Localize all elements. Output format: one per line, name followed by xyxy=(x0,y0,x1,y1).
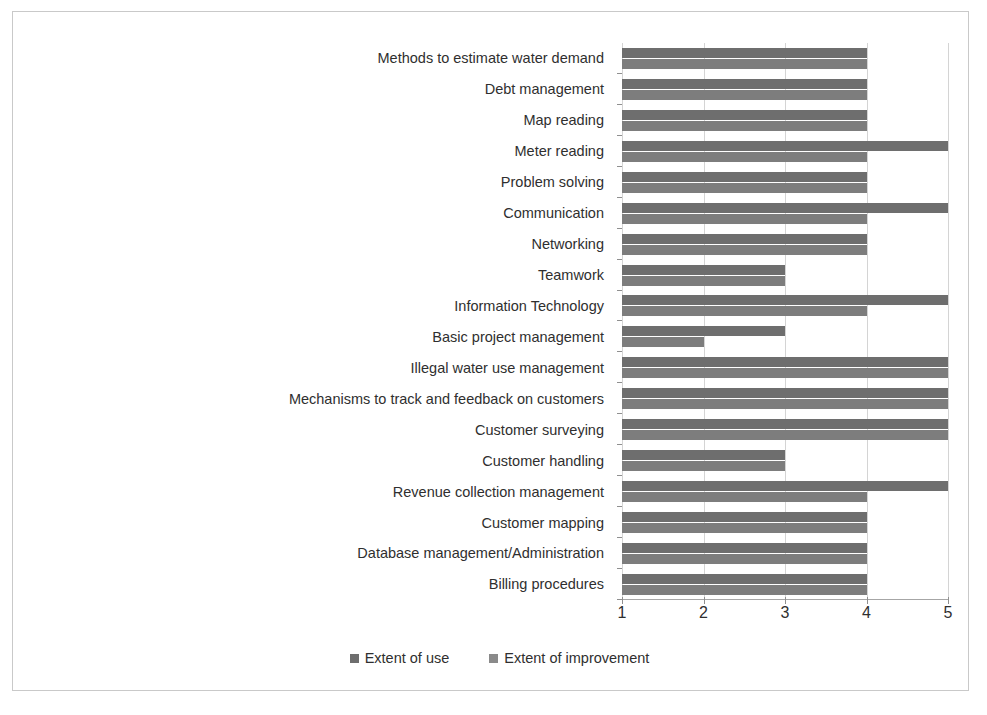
bar-extent-of-use xyxy=(622,326,785,336)
value-tick-label: 1 xyxy=(602,604,642,622)
bar-extent-of-use xyxy=(622,481,948,491)
category-label: Information Technology xyxy=(454,298,604,314)
bar-group xyxy=(622,167,948,198)
category-label-row: Debt management xyxy=(53,74,613,105)
category-label: Illegal water use management xyxy=(411,360,604,376)
value-tick-mark xyxy=(948,597,949,604)
bar-extent-of-use xyxy=(622,110,867,120)
category-label-row: Networking xyxy=(53,229,613,260)
bar-extent-of-improvement xyxy=(622,121,867,131)
value-tick-mark xyxy=(867,597,868,604)
category-label: Mechanisms to track and feedback on cust… xyxy=(289,391,604,407)
category-label-row: Information Technology xyxy=(53,291,613,322)
bar-group xyxy=(622,569,948,600)
bar-extent-of-improvement xyxy=(622,276,785,286)
bar-extent-of-improvement xyxy=(622,214,867,224)
category-label: Communication xyxy=(503,205,604,221)
category-label: Problem solving xyxy=(501,174,604,190)
category-label: Basic project management xyxy=(432,329,604,345)
bar-group xyxy=(622,260,948,291)
bar-extent-of-improvement xyxy=(622,337,704,347)
bar-extent-of-use xyxy=(622,543,867,553)
value-tick-label: 2 xyxy=(684,604,724,622)
bar-extent-of-use xyxy=(622,512,867,522)
legend-swatch-icon xyxy=(350,654,359,663)
category-label-row: Billing procedures xyxy=(53,569,613,600)
bar-extent-of-use xyxy=(622,419,948,429)
category-label: Networking xyxy=(531,236,604,252)
bar-extent-of-use xyxy=(622,265,785,275)
bar-group xyxy=(622,414,948,445)
bar-extent-of-use xyxy=(622,234,867,244)
category-label: Teamwork xyxy=(538,267,604,283)
bar-extent-of-improvement xyxy=(622,152,867,162)
bar-extent-of-use xyxy=(622,141,948,151)
category-label-row: Revenue collection management xyxy=(53,476,613,507)
bar-extent-of-improvement xyxy=(622,59,867,69)
category-label-row: Problem solving xyxy=(53,167,613,198)
bar-extent-of-improvement xyxy=(622,554,867,564)
category-label: Billing procedures xyxy=(489,576,604,592)
bar-group xyxy=(622,383,948,414)
bar-group xyxy=(622,105,948,136)
legend-label: Extent of improvement xyxy=(504,650,649,666)
bar-extent-of-improvement xyxy=(622,306,867,316)
category-label-row: Customer handling xyxy=(53,445,613,476)
bar-group xyxy=(622,43,948,74)
bar-group xyxy=(622,291,948,322)
chart-figure: Methods to estimate water demandDebt man… xyxy=(12,11,969,691)
bar-group xyxy=(622,321,948,352)
category-label-row: Teamwork xyxy=(53,260,613,291)
value-tick-label: 3 xyxy=(765,604,805,622)
bar-extent-of-use xyxy=(622,48,867,58)
bar-extent-of-use xyxy=(622,172,867,182)
bar-extent-of-use xyxy=(622,295,948,305)
category-label-row: Methods to estimate water demand xyxy=(53,43,613,74)
bar-extent-of-improvement xyxy=(622,368,948,378)
category-label: Customer handling xyxy=(482,453,604,469)
value-tick-mark xyxy=(622,597,623,604)
bar-group xyxy=(622,198,948,229)
chart-legend: Extent of useExtent of improvement xyxy=(13,650,968,666)
bar-extent-of-improvement xyxy=(622,523,867,533)
bar-extent-of-use xyxy=(622,203,948,213)
bar-extent-of-improvement xyxy=(622,430,948,440)
bar-group xyxy=(622,229,948,260)
value-tick-mark xyxy=(704,597,705,604)
legend-item[interactable]: Extent of improvement xyxy=(489,650,649,666)
bar-extent-of-improvement xyxy=(622,585,867,595)
category-label-row: Communication xyxy=(53,198,613,229)
bar-extent-of-improvement xyxy=(622,399,948,409)
category-label-row: Basic project management xyxy=(53,321,613,352)
bar-group xyxy=(622,445,948,476)
bar-extent-of-use xyxy=(622,574,867,584)
category-label-row: Customer surveying xyxy=(53,414,613,445)
category-axis-labels: Methods to estimate water demandDebt man… xyxy=(53,43,613,600)
category-label: Database management/Administration xyxy=(357,545,604,561)
bar-extent-of-use xyxy=(622,450,785,460)
bar-group xyxy=(622,74,948,105)
bar-group xyxy=(622,507,948,538)
gridline-5 xyxy=(948,43,949,600)
bar-extent-of-improvement xyxy=(622,461,785,471)
bar-extent-of-improvement xyxy=(622,245,867,255)
value-axis-tick-labels: 12345 xyxy=(622,604,948,630)
category-label: Meter reading xyxy=(515,143,604,159)
bar-extent-of-improvement xyxy=(622,183,867,193)
bar-extent-of-use xyxy=(622,388,948,398)
bar-extent-of-use xyxy=(622,357,948,367)
category-label-row: Illegal water use management xyxy=(53,352,613,383)
legend-label: Extent of use xyxy=(365,650,450,666)
bar-extent-of-improvement xyxy=(622,492,867,502)
legend-item[interactable]: Extent of use xyxy=(350,650,450,666)
bar-group xyxy=(622,538,948,569)
value-tick-mark xyxy=(785,597,786,604)
legend-swatch-icon xyxy=(489,654,498,663)
category-label-row: Map reading xyxy=(53,105,613,136)
category-label-row: Customer mapping xyxy=(53,507,613,538)
value-tick-label: 4 xyxy=(847,604,887,622)
bar-group xyxy=(622,476,948,507)
plot-area xyxy=(622,43,948,600)
category-label: Methods to estimate water demand xyxy=(378,50,604,66)
category-label: Customer mapping xyxy=(482,515,605,531)
